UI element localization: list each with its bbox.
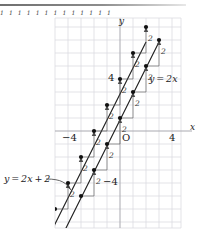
- y-axis-label: y: [119, 16, 124, 26]
- data-point: [157, 38, 161, 42]
- data-point: [131, 90, 135, 94]
- rise-label: 2: [96, 138, 101, 147]
- data-point: [144, 25, 148, 29]
- line-y2x-label: y = 2x: [149, 73, 178, 84]
- line-y2xplus2-label: y = 2x + 2: [4, 173, 50, 184]
- x-tick-label-neg4: −4: [62, 132, 77, 143]
- data-point: [79, 155, 83, 159]
- data-point: [53, 207, 57, 211]
- data-point: [92, 168, 96, 172]
- rise-label: 2: [109, 151, 114, 160]
- x-tick-label-4: 4: [169, 132, 175, 143]
- data-point: [92, 129, 96, 133]
- rise-label: 2: [70, 190, 75, 199]
- coordinate-plot: [0, 0, 207, 235]
- y-tick-label-4: 4: [108, 72, 114, 83]
- figure-root: y x O −4 4 4 −4 y = 2x y = 2x + 2 2 2 2 …: [0, 0, 207, 235]
- rise-label: 2: [122, 125, 127, 134]
- data-point: [144, 64, 148, 68]
- y-tick-label-neg4: −4: [103, 176, 118, 187]
- rise-label: 2: [148, 73, 153, 82]
- axes: [55, 18, 192, 228]
- data-point: [105, 142, 109, 146]
- x-axis-label: x: [190, 122, 195, 132]
- rise-label: 2: [161, 47, 166, 56]
- data-point: [105, 103, 109, 107]
- rise-label: 2: [135, 99, 140, 108]
- rise-label: 2: [122, 86, 127, 95]
- rise-label: 2: [96, 177, 101, 186]
- rise-label: 2: [109, 112, 114, 121]
- rise-label: 2: [83, 164, 88, 173]
- data-point: [131, 51, 135, 55]
- data-point: [79, 194, 83, 198]
- data-point: [118, 77, 122, 81]
- rise-label: 2: [135, 60, 140, 69]
- data-point: [118, 116, 122, 120]
- rise-label: 2: [148, 34, 153, 43]
